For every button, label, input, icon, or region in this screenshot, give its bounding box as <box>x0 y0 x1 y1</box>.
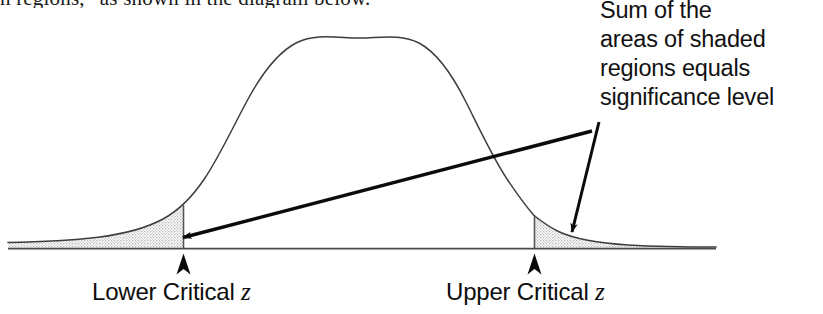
annotation-line-4: significance level <box>600 83 823 112</box>
upper-critical-z-label: Upper Critical z <box>446 278 605 306</box>
annotation-arrow-to-upper-tail <box>572 122 599 232</box>
upper-critical-z-text: Upper Critical <box>446 278 589 305</box>
normal-distribution-figure: n regions,” as shown in the diagram belo… <box>0 0 823 314</box>
lower-critical-z-variable: z <box>241 278 251 305</box>
annotation-arrow-to-lower-tail <box>183 131 592 238</box>
lower-critical-pointer-arrow-icon <box>177 254 191 275</box>
heading-text-fragment: n regions,” as shown in the diagram belo… <box>0 0 620 8</box>
upper-critical-z-variable: z <box>595 278 605 305</box>
upper-critical-pointer-arrow-icon <box>528 254 542 275</box>
lower-critical-z-text: Lower Critical <box>92 278 235 305</box>
annotation-callout: Sum of the areas of shaded regions equal… <box>600 0 823 112</box>
annotation-line-1: Sum of the <box>600 0 823 25</box>
annotation-line-2: areas of shaded <box>600 25 823 54</box>
upper-tail-shaded-region <box>534 216 716 249</box>
annotation-line-3: regions equals <box>600 54 823 83</box>
lower-critical-z-label: Lower Critical z <box>92 278 251 306</box>
